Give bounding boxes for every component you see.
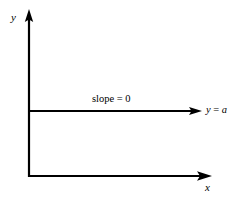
slope-annotation-label: slope = 0 — [92, 94, 131, 105]
line-equation-equals: = — [211, 104, 222, 115]
line-equation-value: a — [222, 104, 227, 115]
y-axis-label: y — [11, 12, 16, 23]
x-axis-label: x — [205, 182, 210, 193]
graph-figure: y x slope = 0 y = a — [0, 0, 241, 199]
line-equation-label: y = a — [206, 105, 227, 116]
